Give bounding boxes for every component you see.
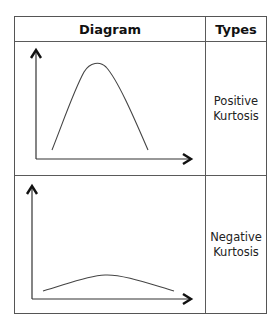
diagrams-layer [0,0,280,328]
positive-kurtosis-diagram [31,50,191,164]
peaked-curve [52,63,148,150]
flat-curve [43,275,174,291]
negative-kurtosis-diagram [27,186,191,304]
kurtosis-table-figure: Diagram Types Positive Kurtosis Negative… [0,0,280,328]
